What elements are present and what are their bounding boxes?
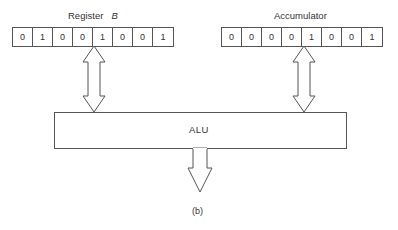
alu-label: ALU [189, 124, 209, 135]
down-arrow-icon [188, 148, 212, 192]
bidirectional-arrow-icon [83, 46, 105, 112]
diagram-graphics [0, 0, 398, 230]
figure-caption: (b) [192, 206, 203, 216]
bidirectional-arrow-icon [293, 46, 315, 112]
